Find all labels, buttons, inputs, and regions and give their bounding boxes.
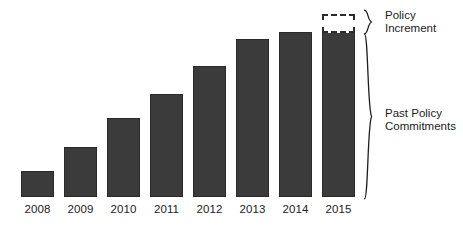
policy-increment-brace <box>363 9 375 35</box>
bar-2011 <box>150 94 183 197</box>
bar-2014 <box>279 32 312 197</box>
policy-increment-label: Policy Increment <box>385 9 436 34</box>
policy-increment-box <box>322 14 355 33</box>
bar-2010 <box>107 118 140 197</box>
policy-increment-label-line2: Increment <box>385 22 436 35</box>
x-tick-label-2015: 2015 <box>313 203 364 215</box>
bar-2009 <box>64 147 97 197</box>
past-policy-commitments-label-line1: Past Policy <box>385 107 456 120</box>
past-policy-commitments-brace <box>363 33 375 200</box>
bar-2008 <box>21 171 54 197</box>
past-policy-commitments-label: Past Policy Commitments <box>385 107 456 132</box>
policy-increment-label-line1: Policy <box>385 9 436 22</box>
bar-2012 <box>193 66 226 197</box>
plot-area: 2008 2009 2010 2011 2012 2013 2014 2015 … <box>0 0 463 231</box>
past-policy-commitments-label-line2: Commitments <box>385 120 456 133</box>
bar-2013 <box>236 39 269 197</box>
bar-2015 <box>322 32 355 197</box>
bar-chart-figure: 2008 2009 2010 2011 2012 2013 2014 2015 … <box>0 0 463 231</box>
